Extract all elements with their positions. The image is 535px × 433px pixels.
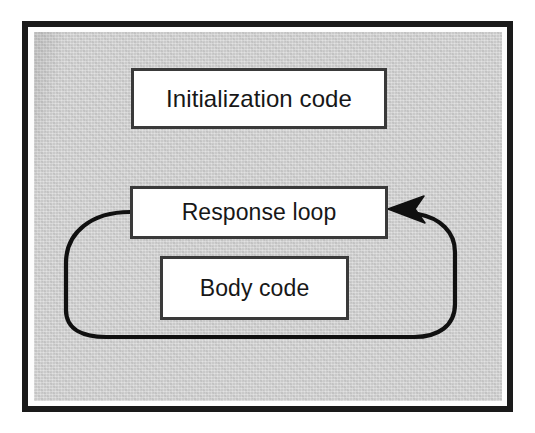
node-body-code-label: Body code (200, 277, 310, 300)
node-response-loop-label: Response loop (182, 201, 337, 224)
node-body-code[interactable]: Body code (160, 256, 349, 320)
node-initialization-code[interactable]: Initialization code (131, 68, 387, 129)
node-response-loop[interactable]: Response loop (130, 186, 388, 239)
node-initialization-code-label: Initialization code (166, 87, 352, 111)
figure-canvas: Initialization code Response loop Body c… (0, 0, 535, 433)
